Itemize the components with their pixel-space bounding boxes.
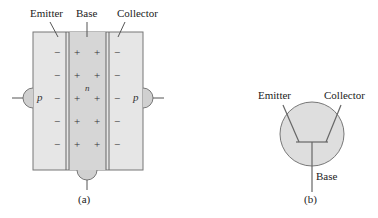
caption-a: (a) bbox=[78, 193, 90, 205]
base-type-n: n bbox=[85, 84, 90, 93]
base-charge: + bbox=[94, 47, 100, 58]
base-charge: + bbox=[94, 116, 100, 127]
base-label: Base bbox=[76, 7, 97, 19]
collector-charge: − bbox=[114, 70, 120, 81]
emitter-charge: − bbox=[54, 47, 60, 58]
collector-charge: − bbox=[114, 47, 120, 58]
emitter-label: Emitter bbox=[30, 7, 63, 19]
base-charge: + bbox=[74, 139, 80, 150]
transistor-block bbox=[12, 22, 164, 190]
emitter-charge: − bbox=[54, 93, 60, 104]
collector-label: Collector bbox=[117, 7, 158, 19]
base-charge: + bbox=[74, 93, 80, 104]
emitter-type-p: p bbox=[37, 92, 43, 103]
base-charge: + bbox=[74, 70, 80, 81]
collector-charge: − bbox=[114, 93, 120, 104]
diagram-canvas bbox=[0, 0, 378, 218]
collector-charge: − bbox=[114, 116, 120, 127]
base-charge: + bbox=[74, 47, 80, 58]
symbol-emitter-label: Emitter bbox=[258, 89, 291, 101]
emitter-charge: − bbox=[54, 116, 60, 127]
emitter-charge: − bbox=[54, 70, 60, 81]
caption-b: (b) bbox=[304, 193, 317, 205]
emitter-charge: − bbox=[54, 139, 60, 150]
symbol-base-label: Base bbox=[316, 170, 337, 182]
collector-type-p: p bbox=[133, 92, 139, 103]
base-charge: + bbox=[94, 93, 100, 104]
base-charge: + bbox=[74, 116, 80, 127]
base-charge: + bbox=[94, 70, 100, 81]
symbol-collector-label: Collector bbox=[324, 89, 365, 101]
base-charge: + bbox=[94, 139, 100, 150]
collector-charge: − bbox=[114, 139, 120, 150]
